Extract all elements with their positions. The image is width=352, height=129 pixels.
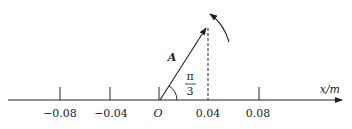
vector-a-arrow: [160, 28, 206, 100]
angle-denominator: 3: [187, 85, 194, 98]
tick-label-0.04: 0.04: [196, 107, 221, 120]
angle-arc: [169, 86, 177, 100]
tick-label-neg-0.04: −0.04: [94, 107, 128, 120]
tick-label-0.08: 0.08: [246, 107, 271, 120]
vector-a-label: A: [167, 51, 177, 64]
angle-numerator: π: [186, 70, 193, 83]
rotation-arrow: [210, 14, 229, 42]
axis-label: x/m: [320, 83, 340, 96]
tick-label-neg-0.08: −0.08: [43, 107, 77, 120]
phasor-diagram: −0.08 −0.04 O 0.04 0.08 x/m A π 3: [0, 0, 352, 129]
origin-label: O: [153, 107, 162, 120]
